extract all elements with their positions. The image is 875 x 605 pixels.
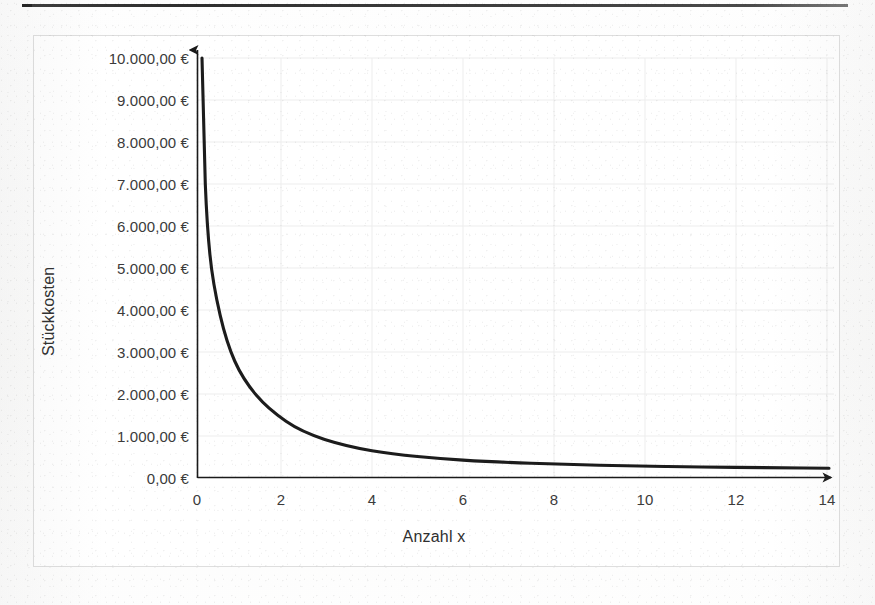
- y-tick-label: 4.000,00 €: [4, 302, 189, 319]
- y-tick-label: 7.000,00 €: [4, 176, 189, 193]
- x-tick-label: 8: [534, 491, 574, 508]
- grid-horizontal: [197, 58, 834, 436]
- scanned-page: 10.000,00 € 9.000,00 € 8.000,00 € 7.000,…: [0, 0, 875, 605]
- y-tick-label: 2.000,00 €: [4, 386, 189, 403]
- x-tick-label: 10: [625, 491, 665, 508]
- page-top-rule: [28, 4, 848, 7]
- x-tick-label: 2: [261, 491, 301, 508]
- x-tick-label: 6: [443, 491, 483, 508]
- y-tick-label: 1.000,00 €: [4, 428, 189, 445]
- y-tick-label: 0,00 €: [4, 470, 189, 487]
- y-tick-label: 10.000,00 €: [4, 50, 189, 67]
- x-tick-label: 14: [807, 491, 847, 508]
- x-tick-label: 0: [177, 491, 217, 508]
- chart-frame: 10.000,00 € 9.000,00 € 8.000,00 € 7.000,…: [33, 35, 840, 567]
- y-tick-label: 8.000,00 €: [4, 134, 189, 151]
- x-tick-label: 12: [716, 491, 756, 508]
- y-tick-label: 9.000,00 €: [4, 92, 189, 109]
- y-tick-label: 6.000,00 €: [4, 218, 189, 235]
- unit-cost-curve: [202, 58, 829, 468]
- x-axis-title: Anzahl x: [403, 528, 466, 546]
- y-tick-label: 5.000,00 €: [4, 260, 189, 277]
- x-tick-label: 4: [352, 491, 392, 508]
- y-tick-label: 3.000,00 €: [4, 344, 189, 361]
- chart-plot-area: 10.000,00 € 9.000,00 € 8.000,00 € 7.000,…: [34, 36, 839, 566]
- y-axis-title: Stückkosten: [40, 267, 58, 356]
